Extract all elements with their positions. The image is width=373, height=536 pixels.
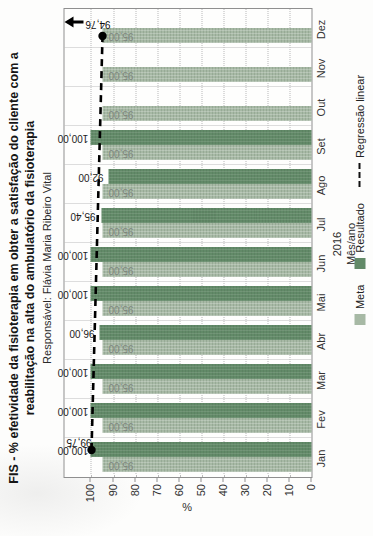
y-tick-label: 40 <box>216 484 228 514</box>
y-tick-mark <box>310 478 311 482</box>
regression-end-label: 94,76 <box>47 18 147 31</box>
regression-point <box>98 32 106 40</box>
legend-resultado-label: Resultado <box>353 203 365 253</box>
y-tick-label: 70 <box>150 484 162 514</box>
month-label: Out <box>314 88 326 127</box>
y-tick-label: 20 <box>260 484 272 514</box>
legend-meta-label: Meta <box>353 285 365 309</box>
y-tick-mark <box>134 478 135 482</box>
y-tick-mark <box>112 478 113 482</box>
regression-line <box>91 36 102 450</box>
resultado-swatch-icon <box>354 258 365 269</box>
month-label: Set <box>314 127 326 166</box>
y-tick-label: 30 <box>238 484 250 514</box>
month-label: Dez <box>314 10 326 49</box>
month-label: Nov <box>314 49 326 88</box>
y-tick-mark <box>156 478 157 482</box>
y-tick-mark <box>200 478 201 482</box>
month-label: Abr <box>314 322 326 361</box>
legend-item-meta: Meta <box>353 285 365 325</box>
month-label: Ago <box>314 166 326 205</box>
plot-area: 95,00100,0095,00100,0095,00100,0095,0096… <box>63 8 312 478</box>
y-tick-label: 80 <box>128 484 140 514</box>
scanned-chart-page: FIS - % efetividade da fisioterapia em o… <box>0 0 373 536</box>
month-label: Jan <box>314 439 326 478</box>
y-tick-label: 50 <box>194 484 206 514</box>
y-tick-label: 0 <box>304 484 316 514</box>
month-label: Jun <box>314 244 326 283</box>
legend-regressao-label: Regressão linear <box>353 75 365 158</box>
legend-item-resultado: Resultado <box>353 203 365 269</box>
y-tick-mark <box>89 478 90 482</box>
y-tick-mark <box>178 478 179 482</box>
month-label: Mai <box>314 283 326 322</box>
regression-overlay <box>64 9 311 477</box>
regression-start-label: 99,75 <box>28 436 128 449</box>
month-label: Jul <box>314 205 326 244</box>
y-tick-mark <box>222 478 223 482</box>
y-axis-label: % <box>157 500 217 513</box>
x-axis-year-label: 2016 <box>330 10 342 478</box>
y-tick-mark <box>288 478 289 482</box>
month-label: Fev <box>314 400 326 439</box>
month-label: Mar <box>314 361 326 400</box>
y-tick-mark <box>266 478 267 482</box>
dashed-line-icon <box>358 163 360 187</box>
y-tick-mark <box>244 478 245 482</box>
rotated-chart-canvas: FIS - % efetividade da fisioterapia em o… <box>0 0 373 536</box>
y-tick-label: 100 <box>83 484 95 514</box>
legend-item-regressao: Regressão linear <box>353 75 365 187</box>
legend: Meta Resultado Regressão linear <box>353 0 365 434</box>
meta-swatch-icon <box>354 314 365 325</box>
y-tick-label: 90 <box>106 484 118 514</box>
y-tick-label: 60 <box>172 484 184 514</box>
y-tick-label: 10 <box>282 484 294 514</box>
